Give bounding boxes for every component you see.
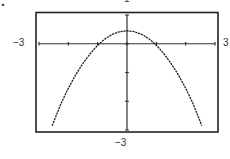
axes [39,15,215,130]
graph-plot [0,0,230,159]
